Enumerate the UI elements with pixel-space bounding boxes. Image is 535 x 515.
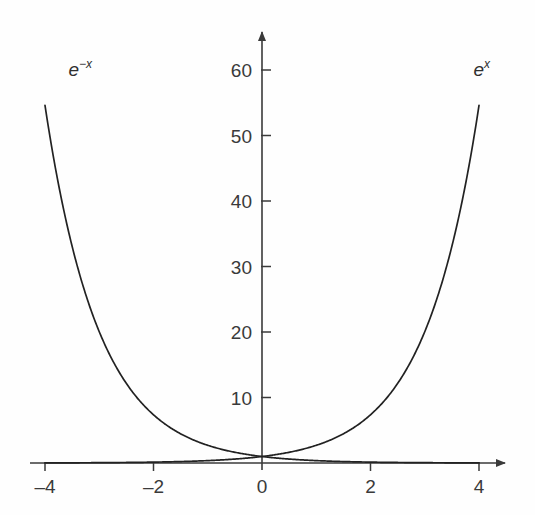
y-tick-label: 50	[231, 126, 252, 145]
y-tick-label: 20	[231, 323, 252, 342]
y-tick-label: 10	[231, 388, 252, 407]
x-tick-label: –4	[34, 477, 55, 496]
axes-group	[30, 32, 505, 470]
y-tick-label: 30	[231, 257, 252, 276]
x-tick-label: 2	[365, 477, 376, 496]
y-tick-label: 40	[231, 192, 252, 211]
y-tick-label: 60	[231, 61, 252, 80]
exponential-functions-chart: –4–2024102030405060 exe−x	[0, 0, 535, 515]
x-tick-label: –2	[143, 477, 164, 496]
x-tick-label: 4	[474, 477, 485, 496]
curve-label-e-x: e−x	[68, 59, 92, 78]
x-tick-label: 0	[257, 477, 268, 496]
curve-label-e-x: ex	[473, 59, 490, 78]
